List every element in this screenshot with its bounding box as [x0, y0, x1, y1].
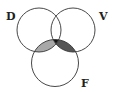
label-d: D: [6, 11, 16, 22]
circle-f: [32, 40, 79, 87]
label-f: F: [81, 78, 89, 89]
circle-v: [51, 8, 95, 52]
label-v: V: [99, 11, 108, 22]
